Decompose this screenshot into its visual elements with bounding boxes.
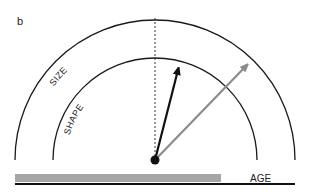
outer-arc-label: SIZE	[47, 65, 69, 88]
size-shape-age-diagram: b SIZE SHAPE AGE	[0, 0, 311, 196]
black-arrow	[155, 70, 178, 160]
age-progress-bar	[15, 174, 221, 182]
inner-arc-label: SHAPE	[62, 102, 86, 136]
age-axis-label: AGE	[250, 173, 271, 184]
gray-arrow	[155, 66, 246, 160]
origin-dot	[151, 156, 160, 165]
panel-label: b	[17, 15, 23, 27]
